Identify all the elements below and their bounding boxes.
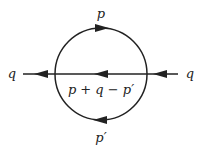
- label-top: p: [97, 6, 106, 21]
- label-right: q: [186, 66, 194, 81]
- top-arrow-icon: [95, 24, 109, 32]
- right-external-arrow-icon: [153, 70, 167, 78]
- label-left: q: [8, 66, 16, 81]
- feynman-diagram: p p′ p + q − p′ q q: [0, 0, 203, 149]
- label-bottom: p′: [95, 130, 106, 145]
- left-external-arrow-icon: [34, 70, 48, 78]
- middle-arrow-icon: [94, 70, 108, 78]
- bottom-arrow-icon: [93, 116, 107, 124]
- label-middle: p + q − p′: [68, 82, 134, 97]
